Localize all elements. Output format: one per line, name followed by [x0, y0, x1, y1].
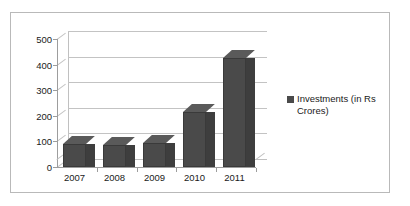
y-axis-label: 0	[47, 162, 52, 173]
chart-legend: Investments (in Rs Crores)	[287, 93, 383, 117]
legend-item-label: Investments (in Rs Crores)	[297, 93, 383, 117]
x-axis-label-2007: 2007	[58, 172, 92, 183]
bar-front-face	[183, 112, 206, 167]
y-axis	[57, 39, 58, 167]
x-axis-label-2008: 2008	[98, 172, 132, 183]
chart-frame: 0100200300400500 20072008200920102011 In…	[10, 12, 390, 193]
bar-2008	[103, 145, 126, 167]
y-axis-label: 300	[36, 85, 52, 96]
x-axis-label-2009: 2009	[138, 172, 172, 183]
plot-area: 0100200300400500 20072008200920102011	[57, 31, 267, 176]
y-axis-label: 500	[36, 34, 52, 45]
bar-2010	[183, 112, 206, 167]
bar-front-face	[223, 58, 246, 167]
bar-2011	[223, 58, 246, 167]
legend-square-marker-icon	[287, 96, 294, 103]
bar-side-face	[86, 144, 95, 167]
y-axis-tick	[53, 141, 58, 142]
bar-front-face	[103, 145, 126, 167]
bar-side-face	[126, 145, 135, 167]
y-axis-label: 100	[36, 136, 52, 147]
x-axis-label-2011: 2011	[218, 172, 252, 183]
x-axis-tick	[256, 168, 257, 172]
y-axis-tick	[53, 65, 58, 66]
y-axis-label: 200	[36, 110, 52, 121]
y-axis-tick	[53, 90, 58, 91]
x-axis-label-2010: 2010	[178, 172, 212, 183]
bar-front-face	[63, 144, 86, 167]
y-axis-tick	[53, 39, 58, 40]
y-axis-label: 400	[36, 59, 52, 70]
bar-2009	[143, 143, 166, 167]
bar-2007	[63, 144, 86, 167]
bar-side-face	[206, 112, 215, 167]
bar-side-face	[246, 58, 255, 167]
floor-front-edge	[57, 167, 256, 168]
bar-side-face	[166, 143, 175, 167]
gridline	[68, 31, 267, 32]
bar-front-face	[143, 143, 166, 167]
y-axis-tick	[53, 116, 58, 117]
